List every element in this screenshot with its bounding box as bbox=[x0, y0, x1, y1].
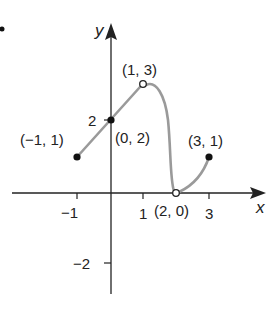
closed-point bbox=[73, 153, 80, 160]
rising-curve bbox=[179, 157, 209, 192]
closed-point bbox=[205, 153, 212, 160]
point-label: (−1, 1) bbox=[20, 131, 64, 148]
x-tick-label: −1 bbox=[61, 204, 78, 221]
x-axis: −1 1 3 x bbox=[12, 187, 266, 222]
y-tick-label: −2 bbox=[73, 255, 90, 272]
x-tick-label: 3 bbox=[205, 205, 213, 222]
point-label: (2, 0) bbox=[154, 202, 189, 219]
x-tick-label: 1 bbox=[139, 205, 147, 222]
point-label: (1, 3) bbox=[122, 61, 157, 78]
y-tick-label: 2 bbox=[88, 112, 96, 129]
point-labels: (−1, 1) (0, 2) (1, 3) (2, 0) (3, 1) bbox=[20, 61, 223, 219]
steep-drop-curve bbox=[146, 84, 174, 191]
function-graph: −1 1 3 x 2 −2 y (−1, 1) (0, 2) (1, 3) (2… bbox=[0, 0, 277, 310]
x-axis-label: x bbox=[255, 198, 265, 217]
list-bullet bbox=[0, 27, 5, 32]
open-point bbox=[140, 81, 147, 88]
point-label: (0, 2) bbox=[115, 129, 150, 146]
point-label: (3, 1) bbox=[188, 132, 223, 149]
y-axis-label: y bbox=[94, 21, 105, 40]
open-point bbox=[173, 190, 180, 197]
closed-point bbox=[107, 116, 114, 123]
